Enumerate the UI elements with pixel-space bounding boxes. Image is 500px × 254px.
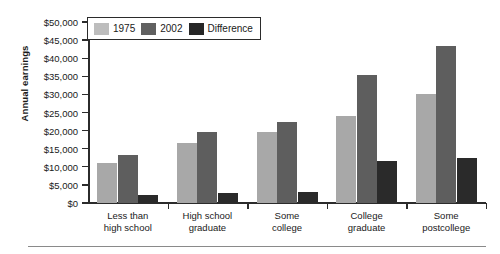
- bar-group: [177, 22, 238, 203]
- y-axis-tick-label: $10,000: [44, 161, 78, 172]
- x-axis-category-label-line: graduate: [327, 222, 407, 234]
- y-axis-tick-label: $35,000: [44, 71, 78, 82]
- legend-swatch-icon: [141, 23, 156, 35]
- bar-2002: [357, 75, 377, 204]
- y-axis-tick-label: $30,000: [44, 89, 78, 100]
- legend-swatch-icon: [189, 23, 204, 35]
- x-axis-category-label-line: College: [327, 210, 407, 222]
- x-axis-category-label-line: high school: [88, 222, 168, 234]
- y-axis-tick-label: $45,000: [44, 35, 78, 46]
- legend-item-1975: 1975: [94, 23, 135, 35]
- bar-1975: [336, 116, 356, 203]
- y-axis-tick: [82, 76, 88, 77]
- y-axis-tick: [82, 166, 88, 167]
- bar-1975: [257, 132, 277, 203]
- bar-difference: [218, 193, 238, 203]
- bar-difference: [138, 195, 158, 203]
- y-axis-title: Annual earnings: [19, 24, 30, 144]
- y-axis-tick-label: $20,000: [44, 125, 78, 136]
- bar-1975: [177, 143, 197, 203]
- y-axis-tick-label: $5,000: [49, 179, 78, 190]
- bar-2002: [436, 46, 456, 203]
- x-axis-category-label: Less thanhigh school: [88, 210, 168, 233]
- legend-label: Difference: [208, 23, 253, 34]
- bar-group: [97, 22, 158, 203]
- x-axis-category-label: Somepostcollege: [406, 210, 486, 233]
- x-axis-category-label: Somecollege: [247, 210, 327, 233]
- legend-item-difference: Difference: [189, 23, 253, 35]
- x-axis-category-label-line: graduate: [168, 222, 248, 234]
- bar-group: [336, 22, 397, 203]
- y-axis-tick-label: $50,000: [44, 17, 78, 28]
- bar-group: [257, 22, 318, 203]
- x-axis-category-label-line: High school: [168, 210, 248, 222]
- bar-2002: [277, 122, 297, 203]
- x-axis-category-label-line: Some: [406, 210, 486, 222]
- y-axis-tick: [82, 202, 88, 203]
- y-axis-tick: [82, 94, 88, 95]
- bar-1975: [97, 163, 117, 203]
- y-axis-tick: [82, 184, 88, 185]
- bar-group: [416, 22, 477, 203]
- legend-label: 2002: [160, 23, 182, 34]
- x-axis-separator: [247, 203, 248, 209]
- y-axis-tick: [82, 112, 88, 113]
- bar-difference: [377, 161, 397, 203]
- bar-chart-figure: Annual earnings $0$5,000$10,000$15,000$2…: [0, 0, 500, 254]
- bottom-divider: [28, 246, 486, 247]
- x-axis-separator: [327, 203, 328, 209]
- y-axis-tick-label: $15,000: [44, 143, 78, 154]
- y-axis-line: [88, 21, 90, 204]
- bar-difference: [457, 158, 477, 203]
- legend-swatch-icon: [94, 23, 109, 35]
- y-axis-tick: [82, 58, 88, 59]
- legend-label: 1975: [113, 23, 135, 34]
- bar-2002: [197, 132, 217, 203]
- y-axis-tick: [82, 130, 88, 131]
- x-axis-category-label-line: college: [247, 222, 327, 234]
- bar-difference: [298, 192, 318, 203]
- x-axis-category-label: Collegegraduate: [327, 210, 407, 233]
- y-axis-tick-label: $25,000: [44, 107, 78, 118]
- y-axis-tick-label: $0: [67, 198, 78, 209]
- x-axis-category-label-line: Less than: [88, 210, 168, 222]
- x-axis-separator: [168, 203, 169, 209]
- y-axis-tick-label: $40,000: [44, 53, 78, 64]
- x-axis-category-label-line: postcollege: [406, 222, 486, 234]
- chart-legend: 19752002Difference: [87, 17, 261, 40]
- x-axis-separator: [406, 203, 407, 209]
- legend-item-2002: 2002: [141, 23, 182, 35]
- x-axis-category-label-line: Some: [247, 210, 327, 222]
- x-axis-separator: [486, 203, 487, 209]
- bar-1975: [416, 94, 436, 203]
- bar-2002: [118, 155, 138, 203]
- y-axis-tick: [82, 148, 88, 149]
- x-axis-category-label: High schoolgraduate: [168, 210, 248, 233]
